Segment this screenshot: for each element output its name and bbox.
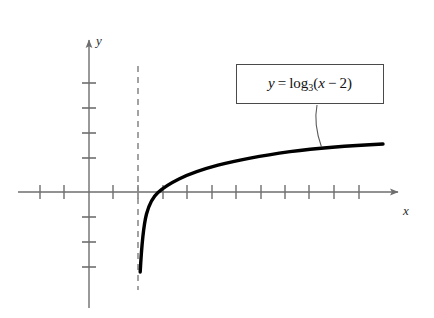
y-axis-label: y [96, 33, 102, 49]
equation-minus: − [328, 75, 336, 91]
equation-constant: 2 [339, 75, 347, 91]
figure-container: (a) [0, 0, 434, 318]
equation-close-paren: ) [347, 75, 352, 91]
x-axis-label: x [403, 203, 409, 219]
equation-lhs: y [268, 75, 275, 91]
equation-variable: x [318, 75, 325, 91]
equation-label-box: y=log3(x−2) [236, 64, 384, 104]
equation-equals: = [278, 75, 286, 91]
equation-function: log [289, 75, 308, 91]
equation-text: y=log3(x−2) [268, 76, 352, 93]
plot-background [0, 0, 434, 318]
graph-canvas [0, 0, 434, 318]
